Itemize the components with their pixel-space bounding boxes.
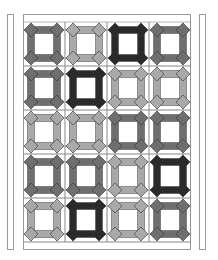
corner-diamond bbox=[50, 95, 64, 109]
corner-diamond bbox=[176, 111, 190, 125]
corner-diamond bbox=[150, 51, 164, 65]
corner-diamond bbox=[24, 227, 38, 241]
corner-diamond bbox=[176, 183, 190, 197]
corner-diamond bbox=[24, 199, 38, 213]
corner-diamond bbox=[134, 155, 148, 169]
corner-diamond bbox=[108, 111, 122, 125]
corner-diamond bbox=[24, 95, 38, 109]
corner-diamond bbox=[92, 23, 106, 37]
corner-diamond bbox=[66, 51, 80, 65]
corner-diamond bbox=[92, 67, 106, 81]
corner-diamond bbox=[134, 23, 148, 37]
corner-diamond bbox=[66, 67, 80, 81]
corner-diamond bbox=[150, 199, 164, 213]
corner-diamond bbox=[134, 199, 148, 213]
corner-diamond bbox=[150, 111, 164, 125]
corner-diamond bbox=[92, 183, 106, 197]
corner-diamond bbox=[108, 183, 122, 197]
corner-diamond bbox=[150, 139, 164, 153]
corner-diamond bbox=[150, 67, 164, 81]
corner-diamond bbox=[50, 155, 64, 169]
corner-diamond bbox=[24, 139, 38, 153]
corner-diamond bbox=[176, 67, 190, 81]
corner-diamond bbox=[108, 67, 122, 81]
corner-diamond bbox=[50, 199, 64, 213]
corner-diamond bbox=[92, 95, 106, 109]
corner-diamond bbox=[50, 183, 64, 197]
corner-diamond bbox=[66, 199, 80, 213]
corner-diamond bbox=[150, 183, 164, 197]
corner-diamond bbox=[134, 111, 148, 125]
corner-diamond bbox=[66, 111, 80, 125]
corner-diamond bbox=[108, 155, 122, 169]
corner-diamond bbox=[134, 51, 148, 65]
corner-diamond bbox=[66, 227, 80, 241]
corner-diamond bbox=[108, 51, 122, 65]
corner-diamond bbox=[108, 227, 122, 241]
corner-diamond bbox=[176, 227, 190, 241]
corner-diamond bbox=[108, 139, 122, 153]
corner-diamond bbox=[50, 139, 64, 153]
corner-diamond bbox=[92, 139, 106, 153]
corner-diamond bbox=[66, 139, 80, 153]
corner-diamond bbox=[150, 95, 164, 109]
corner-diamond bbox=[176, 95, 190, 109]
corner-diamond bbox=[66, 155, 80, 169]
corner-diamond bbox=[24, 155, 38, 169]
corner-diamond bbox=[92, 155, 106, 169]
corner-diamond bbox=[108, 23, 122, 37]
corner-diamond bbox=[24, 51, 38, 65]
corner-diamond bbox=[150, 23, 164, 37]
corner-diamond bbox=[176, 51, 190, 65]
corner-diamond bbox=[50, 23, 64, 37]
corner-diamond bbox=[50, 51, 64, 65]
corner-diamond bbox=[50, 111, 64, 125]
corner-diamond bbox=[50, 67, 64, 81]
corner-diamond bbox=[24, 23, 38, 37]
corner-diamond bbox=[134, 95, 148, 109]
corner-diamond bbox=[92, 227, 106, 241]
corner-diamond bbox=[176, 199, 190, 213]
corner-diamond bbox=[24, 67, 38, 81]
corner-diamond bbox=[134, 67, 148, 81]
corner-diamond bbox=[92, 199, 106, 213]
corner-diamond bbox=[92, 111, 106, 125]
corner-diamond bbox=[24, 183, 38, 197]
corner-diamond bbox=[92, 51, 106, 65]
corner-diamond bbox=[50, 227, 64, 241]
corner-diamond bbox=[66, 95, 80, 109]
corner-diamond bbox=[150, 227, 164, 241]
corner-diamond bbox=[176, 23, 190, 37]
corner-diamond bbox=[176, 155, 190, 169]
corner-diamond bbox=[66, 183, 80, 197]
corner-diamond bbox=[150, 155, 164, 169]
right-border-panel bbox=[199, 14, 206, 250]
left-border-panel bbox=[7, 14, 14, 250]
corner-diamond bbox=[24, 111, 38, 125]
corner-diamond bbox=[66, 23, 80, 37]
quilt-top bbox=[23, 14, 191, 250]
corner-diamond bbox=[176, 139, 190, 153]
corner-diamond bbox=[134, 139, 148, 153]
corner-diamond bbox=[134, 183, 148, 197]
corner-diamond bbox=[108, 95, 122, 109]
corner-diamond bbox=[108, 199, 122, 213]
corner-diamond bbox=[134, 227, 148, 241]
